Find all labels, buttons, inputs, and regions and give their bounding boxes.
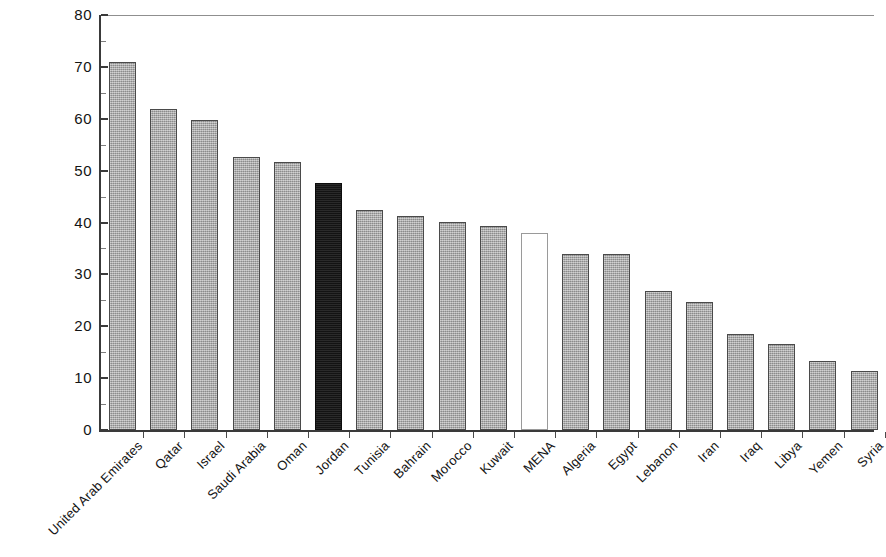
- y-axis-minor-tick: [101, 93, 106, 94]
- bar-algeria: [562, 254, 589, 430]
- x-axis-label-egypt: Egypt: [605, 438, 640, 473]
- x-axis-label-yemen: Yemen: [806, 438, 846, 478]
- y-axis-minor-tick: [101, 197, 106, 198]
- x-axis-tick: [679, 432, 680, 438]
- x-axis-tick: [432, 432, 433, 438]
- bar-iraq: [727, 334, 754, 430]
- x-axis-tick: [761, 432, 762, 438]
- x-axis-label-iran: Iran: [695, 438, 722, 465]
- bar-tunisia: [356, 210, 383, 430]
- x-axis-tick: [143, 432, 144, 438]
- y-axis-tick: [101, 66, 108, 68]
- y-axis-minor-tick: [101, 404, 106, 405]
- bar-kuwait: [480, 226, 507, 430]
- x-axis-label-algeria: Algeria: [558, 438, 598, 478]
- x-axis-label-kuwait: Kuwait: [477, 438, 516, 477]
- bar-iran: [686, 302, 713, 430]
- x-axis-label-oman: Oman: [274, 438, 310, 474]
- x-axis-label-israel: Israel: [194, 438, 228, 472]
- x-axis-tick: [596, 432, 597, 438]
- y-axis-tick: [101, 429, 108, 431]
- x-axis-label-morocco: Morocco: [428, 438, 475, 485]
- bar-bahrain: [397, 216, 424, 430]
- x-axis-label-syria: Syria: [854, 438, 886, 470]
- x-axis-tick: [226, 432, 227, 438]
- x-axis-tick: [638, 432, 639, 438]
- y-axis-minor-tick: [101, 248, 106, 249]
- x-axis-tick: [473, 432, 474, 438]
- bar-morocco: [439, 222, 466, 430]
- x-axis-label-tunisia: Tunisia: [351, 438, 392, 479]
- y-axis-tick: [101, 14, 108, 16]
- x-axis-label-lebanon: Lebanon: [633, 438, 680, 485]
- y-axis-tick: [101, 377, 108, 379]
- bar-israel: [191, 120, 218, 430]
- y-axis-tick: [101, 170, 108, 172]
- y-axis-tick: [101, 273, 108, 275]
- y-axis-minor-tick: [101, 300, 106, 301]
- x-axis-label-united-arab-emirates: United Arab Emirates: [45, 438, 145, 538]
- x-axis-label-qatar: Qatar: [152, 438, 186, 472]
- x-axis-tick: [267, 432, 268, 438]
- x-axis-label-iraq: Iraq: [736, 438, 763, 465]
- x-axis-tick: [184, 432, 185, 438]
- x-axis-tick: [844, 432, 845, 438]
- x-axis-tick: [349, 432, 350, 438]
- x-axis-label-jordan: Jordan: [311, 438, 351, 478]
- x-axis-tick: [720, 432, 721, 438]
- x-axis-label-libya: Libya: [771, 438, 804, 471]
- bar-jordan: [315, 183, 342, 430]
- x-axis-tick: [308, 432, 309, 438]
- bar-united-arab-emirates: [109, 62, 136, 430]
- y-axis-tick: [101, 325, 108, 327]
- x-axis-tick: [802, 432, 803, 438]
- bars-layer: [0, 16, 874, 430]
- x-axis-tick: [555, 432, 556, 438]
- y-axis-tick: [101, 222, 108, 224]
- x-axis-label-bahrain: Bahrain: [390, 438, 433, 481]
- y-axis-minor-tick: [101, 145, 106, 146]
- x-axis-tick: [514, 432, 515, 438]
- bar-syria: [851, 371, 878, 430]
- x-axis-tick: [390, 432, 391, 438]
- x-axis-label-mena: MENA: [520, 438, 558, 476]
- bar-mena: [521, 233, 548, 430]
- x-axis-category-labels: United Arab EmiratesQatarIsraelSaudi Ara…: [0, 430, 874, 557]
- bar-egypt: [603, 254, 630, 430]
- bar-saudi-arabia: [233, 157, 260, 430]
- bar-libya: [768, 344, 795, 430]
- bar-lebanon: [645, 291, 672, 430]
- y-axis-minor-tick: [101, 41, 106, 42]
- y-axis-tick: [101, 118, 108, 120]
- bar-oman: [274, 162, 301, 430]
- y-axis-minor-tick: [101, 352, 106, 353]
- bar-yemen: [809, 361, 836, 431]
- bar-qatar: [150, 109, 177, 430]
